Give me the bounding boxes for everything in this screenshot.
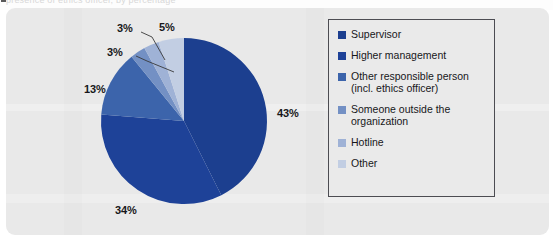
legend-item-label: Someone outside the organization (351, 103, 450, 127)
legend-swatch-icon (338, 106, 346, 114)
legend-swatch-icon (338, 31, 346, 39)
pie-label-supervisor: 43% (277, 107, 299, 119)
pie-label-higher-management: 34% (115, 204, 137, 216)
legend-item-label: Higher management (351, 49, 446, 61)
legend-swatch-icon (338, 139, 346, 147)
pie-label-someone-outside: 3% (107, 46, 123, 58)
legend-swatch-icon (338, 52, 346, 60)
legend-item[interactable]: Supervisor (338, 28, 488, 40)
legend-item-label: Hotline (351, 136, 384, 148)
legend-item-list: SupervisorHigher managementOther respons… (338, 28, 488, 178)
pie-chart-screenshot: presence of ethics officer, by percentag… (0, 0, 553, 237)
chart-legend: SupervisorHigher managementOther respons… (328, 19, 495, 197)
legend-swatch-icon (338, 160, 346, 168)
chart-panel: 43% 34% 13% 3% 3% 5% SupervisorHigher ma… (6, 8, 549, 235)
legend-item-label: Other (351, 157, 377, 169)
legend-item[interactable]: Someone outside the organization (338, 103, 488, 127)
pie-label-hotline: 3% (117, 22, 133, 34)
legend-item[interactable]: Other (338, 157, 488, 169)
legend-item[interactable]: Other responsible person (incl. ethics o… (338, 70, 488, 94)
pie-label-other: 5% (159, 21, 175, 33)
pie-label-other-responsible-person: 13% (84, 83, 106, 95)
legend-swatch-icon (338, 73, 346, 81)
legend-item[interactable]: Hotline (338, 136, 488, 148)
caption-text: presence of ethics officer, by percentag… (6, 0, 176, 5)
pie-slices (101, 38, 267, 204)
legend-item-label: Other responsible person (incl. ethics o… (351, 70, 469, 94)
legend-item[interactable]: Higher management (338, 49, 488, 61)
legend-item-label: Supervisor (351, 28, 401, 40)
